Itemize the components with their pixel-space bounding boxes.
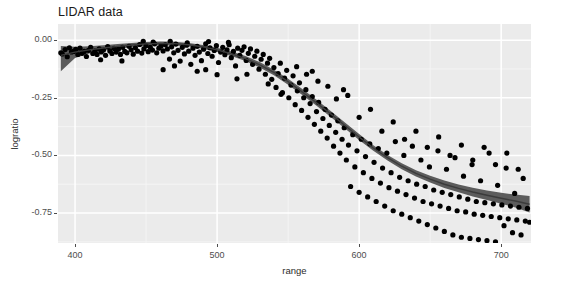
lidar-scatter-plot: LIDAR data 0.00-0.25-0.50-0.75 400500600… xyxy=(0,0,576,286)
y-tick-label: -0.75 xyxy=(31,207,52,217)
y-tick-mark xyxy=(54,155,57,156)
y-axis-title: logratio xyxy=(9,118,20,149)
y-tick-mark xyxy=(54,98,57,99)
x-tick-label: 400 xyxy=(55,250,95,260)
x-tick-mark xyxy=(217,244,218,247)
y-tick-mark xyxy=(54,213,57,214)
y-tick-mark xyxy=(54,40,57,41)
y-tick-label: -0.25 xyxy=(31,92,52,102)
x-axis-title: range xyxy=(58,265,531,276)
x-tick-label: 700 xyxy=(481,250,521,260)
y-tick-label: -0.50 xyxy=(31,149,52,159)
x-tick-mark xyxy=(359,244,360,247)
x-tick-label: 600 xyxy=(339,250,379,260)
x-tick-mark xyxy=(75,244,76,247)
page-title: LIDAR data xyxy=(58,5,123,19)
plot-canvas xyxy=(58,24,531,243)
x-tick-mark xyxy=(501,244,502,247)
x-tick-label: 500 xyxy=(197,250,237,260)
y-tick-label: 0.00 xyxy=(34,34,52,44)
plot-panel xyxy=(58,24,531,243)
